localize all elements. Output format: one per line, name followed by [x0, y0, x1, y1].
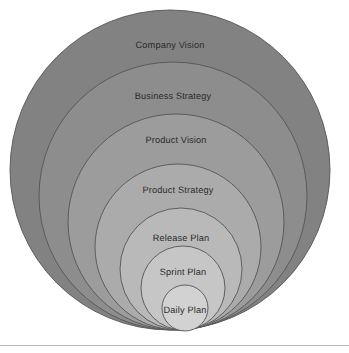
ring-label-product-vision: Product Vision	[145, 135, 206, 146]
diagram-page: Company Vision Business Strategy Product…	[0, 0, 349, 353]
ring-label-sprint-plan: Sprint Plan	[160, 267, 207, 278]
ring-label-daily-plan: Daily Plan	[164, 305, 207, 316]
ring-label-business-strategy: Business Strategy	[135, 91, 212, 102]
ring-label-product-strategy: Product Strategy	[143, 185, 214, 196]
ring-label-release-plan: Release Plan	[153, 233, 209, 244]
concentric-circles-svg	[0, 0, 349, 353]
ring-label-company-vision: Company Vision	[136, 40, 205, 51]
nested-circles-diagram: Company Vision Business Strategy Product…	[0, 0, 349, 353]
rings-group	[10, 10, 330, 331]
footer-divider	[0, 345, 349, 346]
